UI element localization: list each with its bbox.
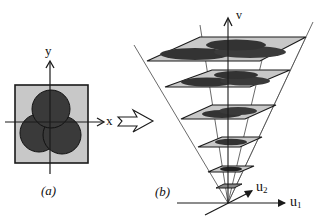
y-axis-label: y <box>45 44 52 57</box>
u1-axis-label: u1 <box>290 195 302 210</box>
scale-plane-6 <box>216 184 242 188</box>
v-axis-label: v <box>236 9 242 21</box>
u2-axis-label: u2 <box>256 180 268 195</box>
scale-plane-4 <box>198 137 262 147</box>
u1-label-base: u <box>290 194 297 209</box>
x-axis-label: x <box>106 114 113 127</box>
caption-b: (b) <box>155 185 170 198</box>
u2-label-base: u <box>256 179 263 194</box>
u2-label-subscript: 2 <box>263 185 268 195</box>
scale-plane-5 <box>208 166 254 172</box>
panel-a <box>5 61 104 174</box>
u1-label-subscript: 1 <box>297 200 302 210</box>
scale-plane-1 <box>147 37 306 61</box>
caption-a: (a) <box>41 184 56 197</box>
hollow-arrow-icon <box>118 110 153 132</box>
u1-axis-arrowhead-icon <box>278 199 286 207</box>
